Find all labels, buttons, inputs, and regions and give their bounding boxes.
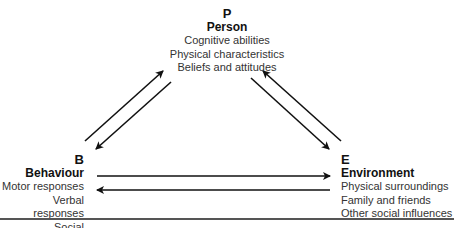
node-behaviour-item: Social interactions (0, 221, 84, 229)
node-person-item: Physical characteristics (140, 48, 314, 62)
arrow-p-to-e (251, 78, 329, 149)
node-environment-item: Physical surroundings (341, 180, 454, 194)
node-behaviour-item: Motor responses (0, 180, 84, 194)
node-environment-letter: E (341, 153, 454, 167)
arrow-p-to-b (96, 82, 171, 149)
node-person: P Person Cognitive abilities Physical ch… (140, 7, 314, 75)
node-environment: E Environment Physical surroundings Fami… (341, 153, 454, 221)
node-environment-item: Family and friends (341, 194, 454, 208)
arrow-b-to-p (85, 71, 163, 141)
node-person-letter: P (140, 7, 314, 21)
node-behaviour-item: Verbal responses (0, 194, 84, 221)
node-person-item: Beliefs and attitudes (140, 61, 314, 75)
node-behaviour-title: Behaviour (0, 167, 84, 180)
arrow-e-to-p (263, 71, 341, 141)
bottom-divider (0, 218, 454, 220)
node-behaviour: B Behaviour Motor responses Verbal respo… (0, 153, 84, 228)
node-environment-title: Environment (341, 167, 454, 180)
node-person-title: Person (140, 21, 314, 34)
node-person-item: Cognitive abilities (140, 34, 314, 48)
node-behaviour-letter: B (0, 153, 84, 167)
